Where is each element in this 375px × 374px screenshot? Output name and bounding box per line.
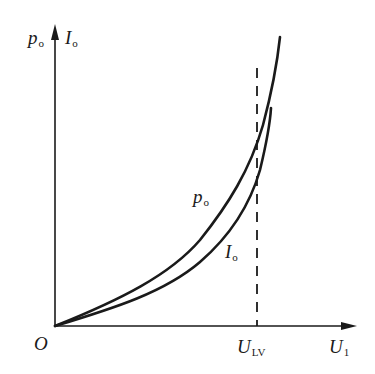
x-axis-label-u1: U1 — [329, 337, 349, 358]
y-axis-label-po: po — [28, 28, 44, 49]
origin-label: O — [34, 334, 48, 353]
curve-label-io: Io — [225, 242, 238, 263]
ulv-label: ULV — [237, 337, 265, 358]
io-curve — [55, 108, 271, 326]
y-axis-arrow-icon — [51, 24, 59, 40]
curve-label-po: po — [193, 187, 209, 208]
y-axis-label-io: Io — [65, 28, 78, 49]
diagram-canvas — [0, 0, 375, 374]
x-axis-arrow-icon — [341, 322, 357, 330]
po-io-vs-u1-diagram: po Io O ULV U1 po Io — [0, 0, 375, 374]
